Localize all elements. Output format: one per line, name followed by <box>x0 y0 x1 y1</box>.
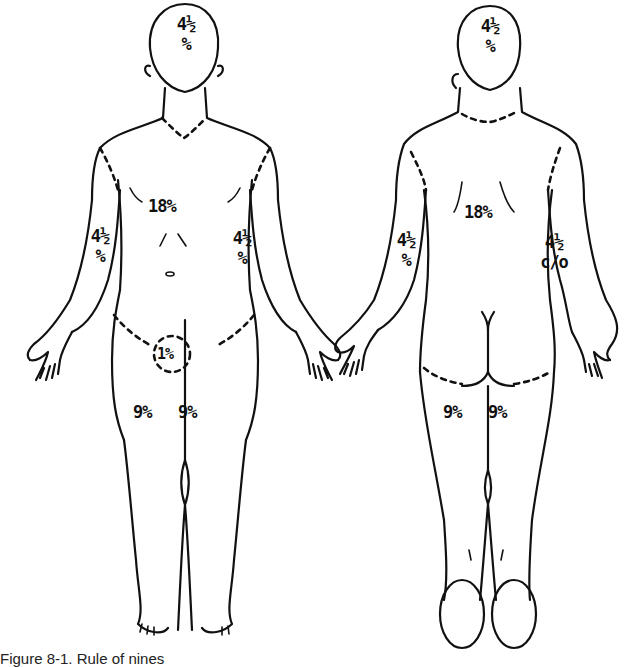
front-left-arm-label: 4½ % <box>222 228 262 268</box>
front-right-arm-unit: % <box>80 246 120 266</box>
front-head-unit: % <box>166 34 206 54</box>
back-left-arm-label: 4½ % <box>386 230 426 270</box>
front-head-value: 4½ <box>166 14 206 34</box>
front-perineum-label: 1% <box>157 344 173 364</box>
front-head-label: 4½ % <box>166 14 206 54</box>
front-left-arm-value: 4½ <box>222 228 262 248</box>
front-body-outline <box>28 4 340 635</box>
front-trunk-label: 18% <box>148 196 176 216</box>
back-left-arm-value: 4½ <box>386 230 426 250</box>
back-left-arm-unit: % <box>386 250 426 270</box>
figure-caption: Figure 8-1. Rule of nines <box>0 650 164 667</box>
back-right-arm-unit: c/o <box>534 252 574 272</box>
front-right-arm-label: 4½ % <box>80 226 120 266</box>
back-right-arm-label: 4½ c/o <box>534 232 574 272</box>
back-trunk-label: 18% <box>464 202 492 222</box>
back-head-label: 4½ % <box>470 16 510 56</box>
back-body-outline <box>335 6 617 648</box>
back-head-unit: % <box>470 36 510 56</box>
back-head-value: 4½ <box>470 16 510 36</box>
back-right-leg-label: 9% <box>488 402 506 422</box>
front-right-leg-label: 9% <box>133 402 151 422</box>
back-right-arm-value: 4½ <box>534 232 574 252</box>
front-left-leg-label: 9% <box>178 402 196 422</box>
front-left-arm-unit: % <box>222 248 262 268</box>
back-left-leg-label: 9% <box>443 402 461 422</box>
front-right-arm-value: 4½ <box>80 226 120 246</box>
